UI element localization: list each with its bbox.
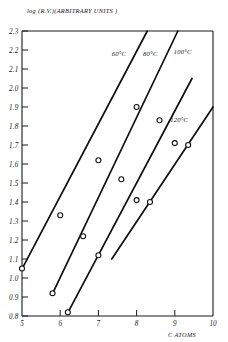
x-tick-label: 5 [20, 320, 24, 328]
y-tick-label: 2.1 [9, 66, 19, 74]
x-tick-label: 6 [58, 320, 62, 328]
x-tick-label: 9 [173, 320, 177, 328]
data-series [65, 79, 192, 315]
y-tick-label: 2.3 [9, 28, 19, 36]
data-point-marker [58, 213, 63, 218]
series-label: 60°C [112, 50, 127, 57]
y-tick-label: 1.9 [9, 104, 19, 112]
data-point-marker [96, 253, 101, 258]
series-label: 80°C [143, 50, 158, 57]
series-line [67, 79, 192, 315]
y-axis-title-text: log (R.V.)(ARBITRARY UNITS ) [27, 7, 117, 15]
series-line [112, 107, 213, 259]
y-tick-label: 1.4 [9, 199, 19, 207]
data-point-marker [81, 234, 86, 239]
data-point-marker [134, 198, 139, 203]
data-point-marker [147, 200, 152, 205]
data-point-marker [134, 105, 139, 110]
data-point-marker [119, 177, 124, 182]
y-axis-ticks: 0.80.91.01.11.21.31.41.51.61.71.81.92.02… [9, 28, 28, 321]
data-point-marker [50, 291, 55, 296]
y-tick-label: 2.2 [9, 47, 19, 55]
y-tick-label: 1.3 [9, 218, 19, 226]
y-tick-label: 1.8 [9, 123, 19, 131]
x-tick-label: 7 [97, 320, 101, 328]
line-chart: log (R.V.)(ARBITRARY UNITS ) 0.80.91.01.… [0, 0, 228, 342]
data-point-marker [172, 141, 177, 146]
y-tick-label: 0.9 [9, 294, 19, 302]
x-tick-label: 10 [209, 320, 217, 328]
y-axis-title: log (R.V.)(ARBITRARY UNITS ) [27, 7, 117, 15]
data-point-marker [157, 118, 162, 123]
x-axis-title-text: C ATOMS [168, 331, 196, 338]
y-tick-label: 1.5 [9, 180, 19, 188]
data-series [112, 107, 213, 259]
data-point-marker [186, 143, 191, 148]
y-tick-label: 0.8 [9, 313, 19, 321]
x-tick-label: 8 [135, 320, 139, 328]
y-tick-label: 1.6 [9, 161, 19, 169]
x-axis-title: C ATOMS [168, 331, 196, 338]
data-point-marker [65, 310, 70, 315]
y-tick-label: 1.2 [9, 237, 19, 245]
y-tick-label: 2.0 [9, 85, 19, 93]
y-tick-label: 1.0 [9, 275, 19, 283]
plot-frame [22, 31, 213, 316]
data-series-group [20, 31, 214, 315]
x-axis-ticks: 5678910 [20, 310, 217, 328]
data-point-marker [20, 266, 25, 271]
y-tick-label: 1.7 [9, 142, 19, 150]
y-tick-label: 1.1 [9, 256, 19, 264]
chart-figure: log (R.V.)(ARBITRARY UNITS ) 0.80.91.01.… [0, 0, 228, 342]
data-point-marker [96, 158, 101, 163]
series-label: 120°C [170, 116, 188, 123]
series-label: 100°C [174, 48, 192, 55]
